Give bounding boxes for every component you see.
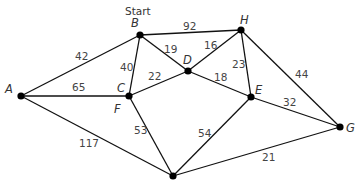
edge-weight-label: 117 bbox=[79, 137, 99, 149]
edge-weight-label: 54 bbox=[198, 127, 212, 139]
edge-weight-label: 23 bbox=[232, 58, 245, 70]
edge-weight-label: 42 bbox=[75, 50, 88, 62]
node-H bbox=[237, 26, 244, 33]
node-label: A bbox=[4, 82, 13, 96]
node-B bbox=[136, 31, 143, 38]
edge-weight-label: 44 bbox=[295, 68, 309, 80]
edge-H-G bbox=[241, 30, 340, 127]
edge-weight-label: 19 bbox=[164, 43, 177, 55]
node-label: E bbox=[255, 83, 263, 97]
node-label: G bbox=[346, 121, 355, 135]
edge-A-X bbox=[21, 96, 173, 176]
edge-weight-label: 18 bbox=[214, 71, 227, 83]
edge-weight-label: 16 bbox=[204, 39, 218, 51]
edge-weight-label: 92 bbox=[183, 20, 196, 32]
edge-weight-label: 21 bbox=[262, 151, 275, 163]
edge-weight-label: 65 bbox=[72, 81, 85, 93]
node-label: C bbox=[117, 81, 125, 95]
weighted-graph: Start 4265117401992225316182344325421ABC… bbox=[0, 0, 363, 194]
edge-weight-label: 32 bbox=[283, 96, 296, 108]
node-D bbox=[184, 67, 191, 74]
edge-weight-label: 53 bbox=[134, 124, 147, 136]
node-A bbox=[17, 92, 24, 99]
node-G bbox=[336, 123, 343, 130]
node-label: H bbox=[240, 13, 249, 27]
node-label: D bbox=[183, 53, 192, 67]
edge-weight-label: 22 bbox=[148, 70, 161, 82]
edge-weight-label: 40 bbox=[120, 61, 133, 73]
node-E bbox=[247, 93, 254, 100]
node-label: B bbox=[131, 16, 139, 30]
node-C bbox=[125, 92, 132, 99]
labels: Start 4265117401992225316182344325421ABC… bbox=[4, 5, 355, 163]
node-label: F bbox=[114, 102, 121, 116]
node-X bbox=[169, 172, 176, 179]
